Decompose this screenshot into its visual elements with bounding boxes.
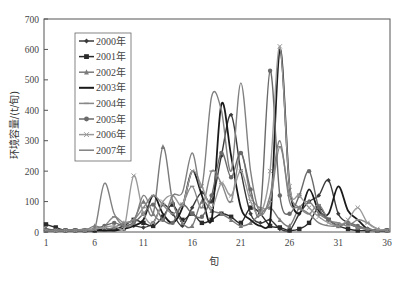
- square-marker: [297, 227, 301, 231]
- x-marker: [307, 205, 311, 209]
- x-tick-label: 11: [139, 238, 148, 248]
- legend-label: 2006年: [96, 128, 126, 140]
- square-marker: [44, 222, 48, 226]
- legend-label: 2002年: [96, 66, 126, 78]
- x-tick-label: 26: [285, 238, 295, 248]
- x-tick-label: 6: [92, 238, 97, 248]
- legend-label: 2005年: [96, 113, 126, 125]
- circle-marker: [170, 221, 174, 225]
- y-tick-label: 200: [25, 167, 40, 177]
- circle-marker: [209, 193, 213, 197]
- square-marker: [200, 221, 204, 225]
- circle-marker: [229, 175, 233, 179]
- legend-label: 2004年: [96, 97, 126, 109]
- y-tick-label: 500: [25, 75, 40, 85]
- legend-label: 2003年: [96, 81, 126, 93]
- circle-marker: [278, 193, 282, 197]
- circle-marker: [268, 69, 272, 73]
- x-axis-title: 旬: [209, 255, 219, 267]
- circle-marker: [200, 215, 204, 219]
- triangle-marker: [161, 144, 165, 149]
- circle-marker: [317, 205, 321, 209]
- square-marker: [278, 225, 282, 229]
- y-tick-label: 300: [25, 136, 40, 146]
- square-marker: [346, 227, 350, 231]
- line-chart: 010020030040050060070016111621263136 200…: [0, 0, 404, 284]
- legend-label: 2007年: [96, 144, 126, 156]
- circle-marker: [239, 151, 243, 155]
- y-tick-label: 100: [25, 197, 40, 207]
- x-tick-label: 36: [382, 238, 392, 248]
- x-tick-label: 1: [44, 238, 49, 248]
- circle-marker: [307, 169, 311, 173]
- circle-marker: [219, 151, 223, 155]
- square-marker: [287, 228, 291, 232]
- legend-label: 2001年: [96, 50, 126, 62]
- diamond-marker: [248, 212, 252, 216]
- x-tick-label: 16: [187, 238, 197, 248]
- triangle-marker: [141, 199, 145, 204]
- y-axis-title: 环境容量/(t/旬): [8, 91, 20, 160]
- square-marker: [307, 221, 311, 225]
- circle-marker: [84, 117, 89, 122]
- circle-marker: [151, 202, 155, 206]
- diamond-marker: [258, 221, 262, 225]
- diamond-marker: [141, 225, 145, 229]
- y-tick-label: 0: [34, 228, 39, 238]
- circle-marker: [287, 212, 291, 216]
- legend-label: 2000年: [96, 35, 126, 47]
- x-tick-label: 31: [334, 238, 344, 248]
- square-marker: [84, 54, 89, 59]
- x-tick-label: 21: [236, 238, 246, 248]
- y-tick-label: 400: [25, 106, 40, 116]
- legend: 2000年2001年2002年2003年2004年2005年2006年2007年: [75, 33, 131, 161]
- y-tick-label: 600: [25, 45, 40, 55]
- circle-marker: [190, 212, 194, 216]
- y-tick-label: 700: [25, 15, 40, 25]
- circle-marker: [248, 187, 252, 191]
